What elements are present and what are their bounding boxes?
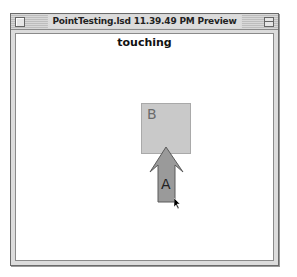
status-text: touching (16, 36, 273, 49)
window-title: PointTesting.lsd 11.39.49 PM Preview (47, 15, 241, 28)
up-arrow-icon (149, 147, 185, 203)
title-bar[interactable]: PointTesting.lsd 11.39.49 PM Preview (11, 14, 278, 30)
sprite-a[interactable]: A (149, 147, 185, 203)
arrow-pointer-icon (174, 198, 182, 209)
sprite-a-label: A (161, 176, 171, 192)
sprite-b-label: B (147, 106, 157, 122)
close-box-icon[interactable] (15, 17, 25, 27)
preview-window: PointTesting.lsd 11.39.49 PM Preview tou… (10, 13, 279, 266)
zoom-box-icon[interactable] (264, 17, 274, 27)
stage-area: touching B A (15, 33, 274, 261)
